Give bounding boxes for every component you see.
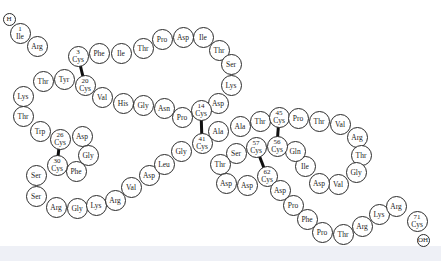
residue-thr: Thr	[333, 224, 354, 245]
residue-thr: Thr	[13, 106, 34, 127]
residue-label: Cys	[79, 85, 91, 92]
residue-label: Pro	[288, 202, 298, 209]
residue-pro: Pro	[172, 107, 193, 128]
residue-label: Gly	[137, 102, 148, 109]
residue-cys: 30Cys	[47, 155, 68, 176]
residue-ser: Ser	[26, 165, 47, 186]
residue-asp: Asp	[237, 175, 258, 196]
residue-label: Ala	[213, 128, 224, 135]
residue-label: Asp	[177, 34, 189, 41]
residue-lys: Lys	[86, 195, 107, 216]
residue-label: Cys	[271, 146, 283, 153]
residue-lys: Lys	[13, 86, 34, 107]
residue-label: Leu	[158, 161, 170, 168]
residue-label: Val	[335, 121, 345, 128]
residue-asp: Asp	[309, 173, 330, 194]
residue-asn: Asn	[154, 98, 175, 119]
residue-cys: 26Cys	[50, 129, 71, 150]
residue-label: Pro	[177, 114, 187, 121]
residue-label: Asp	[220, 180, 232, 187]
residue-ser: Ser	[26, 186, 47, 207]
residue-label: Ser	[31, 172, 41, 179]
c-terminus: OH	[417, 234, 430, 247]
residue-ile: Ile	[111, 43, 132, 64]
residue-cys: 57Cys	[246, 137, 267, 158]
residue-label: Cys	[196, 143, 208, 150]
residue-ile: 1Ile	[10, 23, 31, 44]
residue-cys: 20Cys	[75, 75, 96, 96]
residue-thr: Thr	[250, 111, 271, 132]
residue-label: Lys	[226, 82, 237, 89]
residue-lys: Lys	[221, 75, 242, 96]
residue-label: Asp	[241, 182, 253, 189]
residue-label: Ile	[117, 50, 125, 57]
residue-tyr: Tyr	[54, 69, 75, 90]
residue-label: Ala	[235, 123, 246, 130]
residue-label: Arg	[50, 204, 62, 211]
residue-label: Arg	[390, 203, 402, 210]
residue-label: Thr	[338, 231, 349, 238]
bottom-band	[0, 246, 441, 261]
residue-label: Tyr	[59, 76, 69, 83]
residue-label: Ile	[199, 34, 207, 41]
residue-label: Lys	[18, 93, 29, 100]
residue-label: Thr	[255, 118, 266, 125]
residue-label: Ile	[16, 33, 24, 40]
residue-val: Val	[121, 177, 142, 198]
residue-ala: Ala	[230, 116, 251, 137]
residue-pro: Pro	[312, 222, 333, 243]
residue-label: Cys	[261, 176, 273, 183]
residue-thr: Thr	[210, 154, 231, 175]
residue-label: Val	[333, 181, 343, 188]
residue-label: Thr	[215, 161, 226, 168]
residue-label: Phe	[93, 50, 104, 57]
residue-label: Phe	[70, 168, 81, 175]
residue-label: Phe	[301, 216, 312, 223]
residue-label: Arg	[351, 134, 363, 141]
residue-label: Gly	[71, 205, 82, 212]
residue-val: Val	[328, 174, 349, 195]
residue-label: Asp	[212, 100, 224, 107]
residue-label: Pro	[157, 36, 167, 43]
residue-label: Ser	[226, 61, 236, 68]
residue-label: Arg	[356, 223, 368, 230]
residue-cys: 71Cys	[407, 211, 428, 232]
residue-arg: Arg	[46, 197, 67, 218]
residue-label: Val	[126, 184, 136, 191]
residue-gln: Gln	[285, 141, 306, 162]
residue-trp: Trp	[30, 121, 51, 142]
residue-label: Ile	[301, 163, 309, 170]
residue-gly: Gly	[67, 198, 88, 219]
residue-label: Thr	[138, 45, 149, 52]
residue-gly: Gly	[171, 141, 192, 162]
residue-label: Thr	[18, 113, 29, 120]
residue-arg: Arg	[386, 196, 407, 217]
residue-arg: Arg	[27, 36, 48, 57]
residue-label: Pro	[317, 229, 327, 236]
residue-label: Trp	[35, 128, 46, 135]
residue-label: Cys	[411, 221, 423, 228]
residue-gly: Gly	[346, 162, 367, 183]
residue-label: Asn	[158, 105, 170, 112]
n-terminus: H	[3, 13, 16, 26]
residue-leu: Leu	[154, 154, 175, 175]
residue-label: Pro	[293, 115, 303, 122]
residue-label: Asp	[274, 187, 286, 194]
residue-label: Gly	[175, 148, 186, 155]
residue-label: Gln	[289, 148, 300, 155]
residue-pro: Pro	[288, 108, 309, 129]
residue-asp: Asp	[216, 173, 237, 194]
residue-label: His	[118, 100, 128, 107]
residue-ala: Ala	[208, 121, 229, 142]
residue-label: Cys	[72, 56, 84, 63]
residue-label: Thr	[314, 118, 325, 125]
residue-cys: 14Cys	[191, 100, 212, 121]
residue-label: Ser	[231, 150, 241, 157]
residue-label: Cys	[195, 110, 207, 117]
residue-label: Lys	[91, 202, 102, 209]
residue-label: Cys	[250, 147, 262, 154]
residue-thr: Thr	[309, 111, 330, 132]
residue-label: Lys	[374, 211, 385, 218]
residue-cys: 56Cys	[267, 136, 288, 157]
residue-val: Val	[330, 114, 351, 135]
